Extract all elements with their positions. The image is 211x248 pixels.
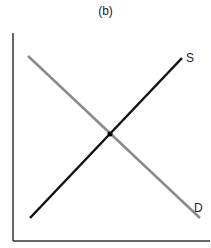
supply-demand-diagram: S D bbox=[0, 0, 211, 248]
demand-label: D bbox=[194, 201, 203, 215]
equilibrium-point bbox=[108, 132, 113, 137]
supply-label: S bbox=[186, 51, 194, 65]
supply-curve bbox=[30, 58, 182, 218]
